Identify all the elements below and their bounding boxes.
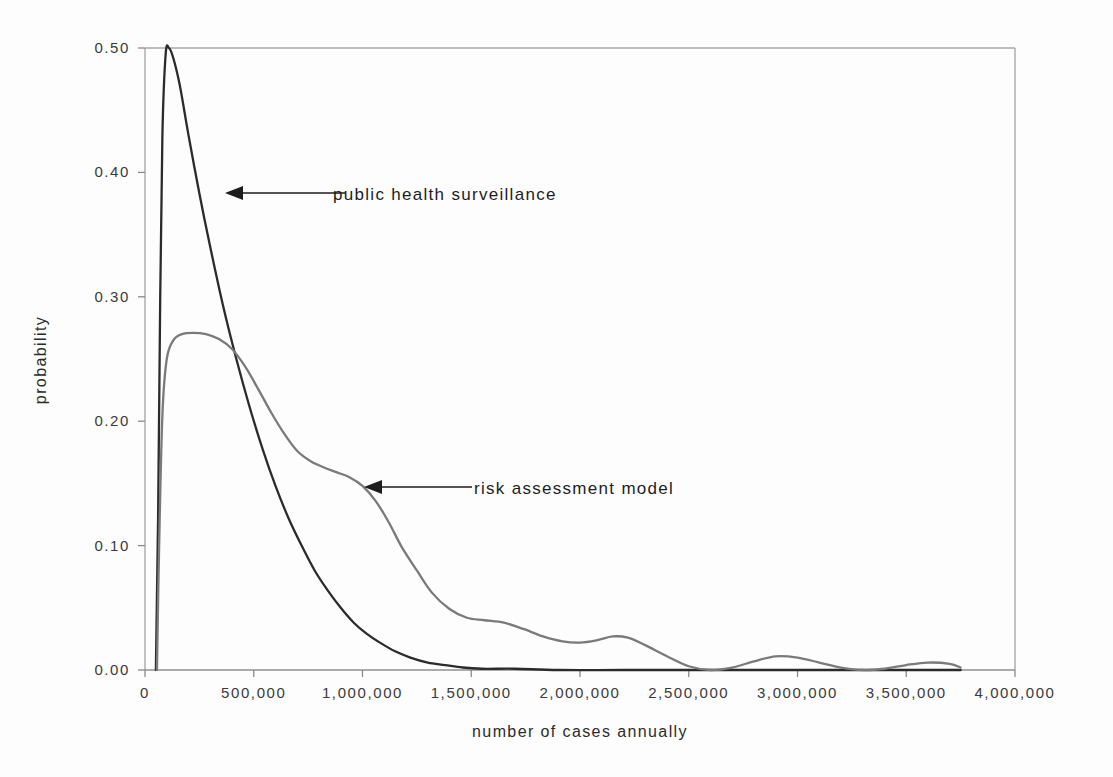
series-line-risk-assessment-model <box>157 333 961 670</box>
x-tick-label: 3,500,000 <box>866 684 947 701</box>
probability-distribution-chart: 0.000.100.200.300.400.50 0500,0001,000,0… <box>0 0 1113 777</box>
annotation-risk-assessment-model: risk assessment model <box>364 479 674 498</box>
y-tick-label: 0.10 <box>94 537 130 554</box>
annotation-arrow-head-2 <box>364 480 382 494</box>
x-tick-label: 500,000 <box>221 684 286 701</box>
x-tick-label: 2,000,000 <box>539 684 620 701</box>
x-tick-label: 2,500,000 <box>648 684 729 701</box>
x-tick-label: 0 <box>140 684 150 701</box>
y-axis-tick-labels: 0.000.100.200.300.400.50 <box>94 39 130 678</box>
y-tick-label: 0.50 <box>94 39 130 56</box>
chart-figure: 0.000.100.200.300.400.50 0500,0001,000,0… <box>0 0 1113 777</box>
series-line-public-health-surveillance <box>156 45 961 670</box>
x-axis-title: number of cases annually <box>472 723 688 740</box>
annotation-label-public-health-surveillance: public health surveillance <box>333 185 557 204</box>
annotation-arrow-head-1 <box>225 186 243 200</box>
x-tick-label: 3,000,000 <box>757 684 838 701</box>
annotation-public-health-surveillance: public health surveillance <box>225 185 557 204</box>
y-tick-label: 0.20 <box>94 412 130 429</box>
y-axis-ticks <box>138 48 145 670</box>
x-tick-label: 1,500,000 <box>431 684 512 701</box>
x-axis-tick-labels: 0500,0001,000,0001,500,0002,000,0002,500… <box>140 684 1056 701</box>
x-tick-label: 1,000,000 <box>322 684 403 701</box>
y-tick-label: 0.40 <box>94 163 130 180</box>
y-tick-label: 0.00 <box>94 661 130 678</box>
y-axis-title: probability <box>32 316 49 404</box>
y-tick-label: 0.30 <box>94 288 130 305</box>
plot-frame <box>145 48 1015 670</box>
data-series-group <box>156 45 961 670</box>
x-tick-label: 4,000,000 <box>974 684 1055 701</box>
annotation-label-risk-assessment-model: risk assessment model <box>474 479 674 498</box>
